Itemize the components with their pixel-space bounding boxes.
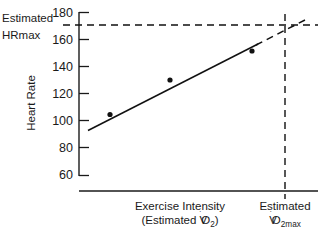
chart-canvas: 180 160 140 120 100 80 60 Estimated xyxy=(0,0,318,229)
hrmax-annotation-line1: Estimated xyxy=(2,12,53,24)
x-axis-label-right-sub-2max: 2max xyxy=(281,220,301,229)
x-axis-label-right-line2: V̇O2max xyxy=(269,211,301,229)
regression-line-extrapolated xyxy=(256,19,307,45)
y-tick-label-80: 80 xyxy=(59,141,73,155)
y-tick-label-160: 160 xyxy=(52,33,73,47)
x-axis-label-left-line1: Exercise Intensity xyxy=(135,200,225,212)
regression-line-solid xyxy=(88,44,258,131)
y-tick-label-60: 60 xyxy=(59,168,73,182)
x-axis-label-right-line1: Estimated xyxy=(259,200,310,212)
x-axis-label-right-sub-o: O xyxy=(272,214,281,226)
x-axis-label-left-line2: (Estimated V̇O2) xyxy=(141,211,218,229)
data-point xyxy=(249,48,254,53)
y-axis-title: Heart Rate xyxy=(25,75,37,131)
y-tick-label-100: 100 xyxy=(52,114,73,128)
svg-text:(Estimated V̇O2): (Estimated V̇O2) xyxy=(141,211,218,229)
y-tick-label-180: 180 xyxy=(52,6,73,20)
x-axis-label-left-prefix: (Estimated V xyxy=(141,214,207,226)
hrmax-annotation-line2: HRmax xyxy=(2,29,41,41)
y-tick-label-120: 120 xyxy=(52,87,73,101)
x-axis-label-left-suffix: ) xyxy=(215,214,219,226)
heart-rate-vs-exercise-intensity-chart: 180 160 140 120 100 80 60 Estimated xyxy=(0,0,318,229)
data-point xyxy=(167,77,172,82)
x-axis-label-left-sub-o: O xyxy=(201,214,210,226)
svg-text:V̇O2max: V̇O2max xyxy=(269,211,301,229)
y-tick-label-140: 140 xyxy=(52,60,73,74)
data-point xyxy=(107,112,112,117)
